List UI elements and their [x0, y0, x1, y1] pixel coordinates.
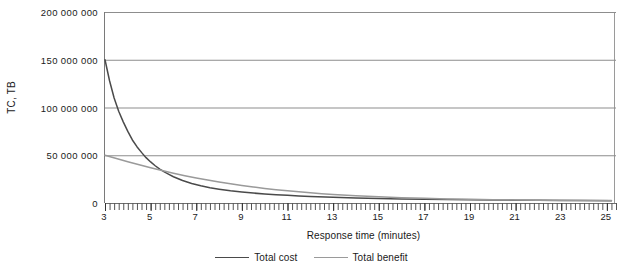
series-line-total-cost — [105, 60, 611, 201]
y-tick-label: 0 — [2, 198, 98, 209]
x-tick-label: 13 — [327, 211, 338, 222]
x-tick-label: 15 — [372, 211, 383, 222]
x-tick-label: 3 — [101, 211, 106, 222]
legend-item[interactable]: Total benefit — [314, 252, 408, 263]
x-axis-tick-labels: 35791113151719212325 — [0, 211, 623, 229]
plot-svg — [105, 12, 616, 203]
x-tick-label: 23 — [555, 211, 566, 222]
x-tick-label: 21 — [509, 211, 520, 222]
x-axis-title: Response time (minutes) — [0, 230, 623, 241]
y-axis-tick-labels: 050 000 000100 000 000150 000 000200 000… — [0, 0, 98, 210]
legend-label: Total cost — [254, 252, 297, 263]
y-tick-label: 50 000 000 — [2, 150, 98, 161]
data-series-lines — [105, 60, 611, 201]
x-axis-minor-ticks — [106, 203, 617, 210]
x-tick-label: 9 — [238, 211, 243, 222]
x-tick-label: 7 — [193, 211, 198, 222]
x-tick-label: 17 — [418, 211, 429, 222]
x-tick-label: 11 — [282, 211, 292, 222]
chart-legend: Total costTotal benefit — [0, 252, 623, 263]
y-tick-label: 200 000 000 — [2, 7, 98, 18]
legend-item[interactable]: Total cost — [215, 252, 297, 263]
chart-container: TC, TB 050 000 000100 000 000150 000 000… — [0, 0, 623, 272]
y-tick-label: 150 000 000 — [2, 54, 98, 65]
x-tick-label: 19 — [464, 211, 475, 222]
series-line-total-benefit — [105, 155, 611, 200]
legend-line-icon — [215, 257, 249, 258]
y-tick-label: 100 000 000 — [2, 102, 98, 113]
x-tick-label: 5 — [147, 211, 152, 222]
legend-label: Total benefit — [353, 252, 408, 263]
plot-area — [104, 12, 615, 203]
x-tick-label: 25 — [601, 211, 612, 222]
legend-line-icon — [314, 257, 348, 258]
